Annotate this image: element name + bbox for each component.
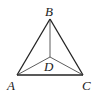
- segment-BC: [50, 19, 83, 75]
- geometry-diagram: B A C D: [0, 0, 96, 96]
- label-B: B: [45, 4, 53, 19]
- triangle-figure: B A C D: [0, 0, 96, 96]
- label-C: C: [82, 78, 91, 93]
- label-D: D: [43, 59, 54, 74]
- label-A: A: [6, 78, 15, 93]
